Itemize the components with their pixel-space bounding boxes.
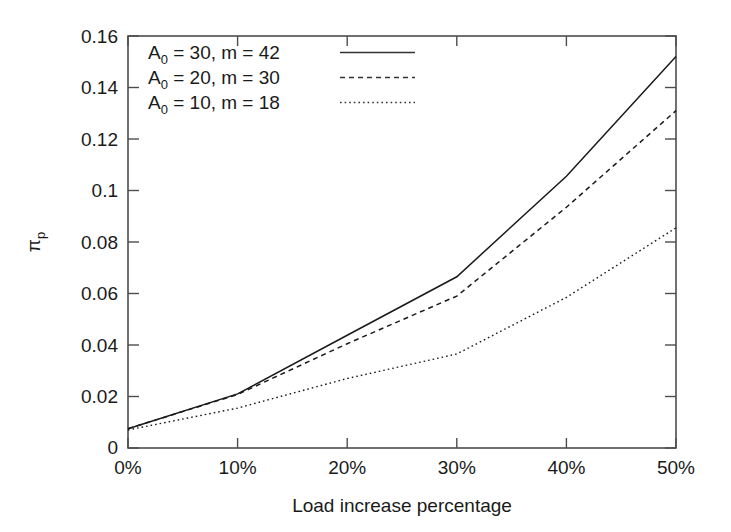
- legend: A0 = 30, m = 42 A0 = 20, m = 30 A0 = 10,…: [148, 42, 415, 117]
- x-tick-label: 0%: [114, 457, 142, 478]
- legend-label-2: A0 = 10, m = 18: [148, 92, 280, 117]
- x-tick-label: 40%: [547, 457, 585, 478]
- x-tick-label: 50%: [657, 457, 695, 478]
- x-tick-label: 30%: [438, 457, 476, 478]
- legend-label-1: A0 = 20, m = 30: [148, 67, 280, 92]
- chart-canvas: 0 0.02 0.04 0.06 0.08 0.1 0.12 0.14 0.16…: [0, 0, 731, 532]
- y-axis-title-subscript: p: [33, 232, 48, 239]
- y-axis-title: πp: [23, 232, 48, 252]
- legend-label-0: A0 = 30, m = 42: [148, 42, 280, 67]
- y-tick-label: 0.02: [81, 386, 118, 407]
- x-tick-label: 10%: [219, 457, 257, 478]
- series-line-dotted: [128, 228, 676, 430]
- y-tick-label: 0.16: [81, 26, 118, 47]
- svg-text:πp: πp: [23, 232, 48, 252]
- y-tick-labels: 0 0.02 0.04 0.06 0.08 0.1 0.12 0.14 0.16: [81, 26, 118, 459]
- y-tick-label: 0: [107, 437, 118, 458]
- x-tick-label: 20%: [328, 457, 366, 478]
- y-tick-label: 0.06: [81, 283, 118, 304]
- x-tick-labels: 0% 10% 20% 30% 40% 50%: [114, 457, 695, 478]
- x-axis-title: Load increase percentage: [292, 495, 512, 516]
- chart-figure: 0 0.02 0.04 0.06 0.08 0.1 0.12 0.14 0.16…: [0, 0, 731, 532]
- y-tick-label: 0.08: [81, 232, 118, 253]
- y-axis-title-symbol: π: [23, 239, 44, 252]
- y-tick-label: 0.04: [81, 335, 118, 356]
- y-tick-label: 0.12: [81, 129, 118, 150]
- series-line-dashed: [128, 111, 676, 429]
- y-tick-label: 0.14: [81, 77, 118, 98]
- y-tick-label: 0.1: [92, 180, 118, 201]
